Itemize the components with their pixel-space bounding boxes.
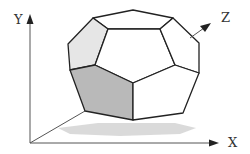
x-axis-label: X — [228, 135, 238, 150]
ground-shadow — [58, 123, 196, 136]
z-axis-line-upper — [190, 28, 204, 38]
x-axis-arrowhead-icon — [209, 140, 219, 147]
z-axis-arrowhead-icon — [200, 23, 211, 32]
z-axis-label: Z — [221, 10, 230, 25]
y-axis-label: Y — [13, 12, 23, 27]
polyhedron — [68, 10, 199, 120]
y-axis-arrowhead-icon — [27, 14, 34, 24]
polyhedron-diagram: Y Z X — [0, 0, 250, 154]
